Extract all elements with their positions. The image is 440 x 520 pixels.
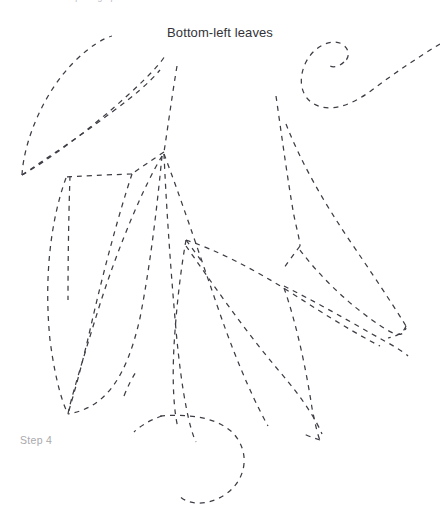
central-stem-main — [164, 66, 177, 152]
upper-left-leaf-midrib — [22, 54, 166, 175]
left-leaf-outer-contour — [48, 178, 68, 414]
left-branch-upper-arc — [66, 174, 132, 177]
right-leaf-upper-rib — [276, 96, 300, 246]
tendril-top-right-inner-hook — [330, 62, 344, 67]
drawing-canvas: trace over the photograph Bottom-left le… — [0, 0, 440, 520]
right-inner-leaf-upper-edge — [186, 240, 380, 346]
tendril-top-right-spiral-outer — [301, 42, 440, 108]
leaf-outline-illustration — [0, 0, 440, 520]
second-leaf-inner-edge — [68, 156, 162, 414]
tendril-bottom-left-stem — [134, 416, 162, 432]
right-inner-leaf-lower-edge — [186, 246, 322, 434]
step-label: Step 4 — [20, 434, 52, 446]
second-leaf-outer-edge — [68, 156, 162, 414]
right-lower-leaf-bottom — [284, 288, 320, 440]
dashed-stroke-group — [22, 36, 440, 503]
upper-left-leaf-inner-edge — [22, 70, 160, 175]
central-leaf-right-edge — [164, 154, 268, 426]
second-leaf-vein-fork — [124, 372, 136, 396]
middle-leaf-lower-left-vein — [173, 240, 186, 428]
left-leaf-inner-contour — [68, 174, 132, 414]
central-leaf-left-edge — [164, 154, 196, 442]
right-leaf-lower-arc — [300, 250, 406, 334]
right-lower-leaf-top — [284, 286, 408, 356]
left-leaf-upper-spine — [68, 176, 70, 300]
upper-left-leaf-outer-edge — [22, 36, 112, 175]
middle-leaf-mid-node — [186, 240, 202, 262]
right-leaf-base-fold — [284, 246, 300, 268]
tendril-bottom-curl — [160, 415, 244, 503]
stem-node-to-left-branch — [132, 152, 164, 174]
